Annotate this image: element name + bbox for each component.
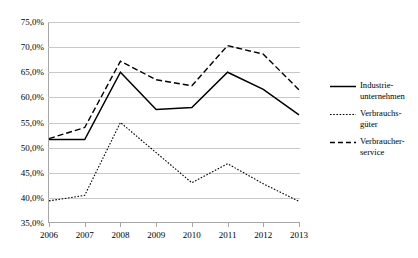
x-axis-tick-label: 2008 [100,230,140,240]
legend-line-swatch-dotted-icon [330,109,356,120]
x-axis-tick-label: 2009 [136,230,176,240]
series-lines [48,22,300,223]
legend-item-label: Verbraucher- service [360,136,405,157]
y-axis-tick-label: 65,0% [0,67,44,77]
plot-area [48,22,300,223]
x-axis-tick-label: 2006 [29,230,69,240]
x-axis-tick-mark [49,223,50,227]
y-axis-tick-label: 60,0% [0,92,44,102]
x-axis-tick-mark [299,223,300,227]
y-axis-tick-label: 50,0% [0,143,44,153]
y-axis-tick-label: 70,0% [0,42,44,52]
legend-item[interactable]: Verbrauchs- güter [330,108,418,129]
x-axis-tick-mark [156,223,157,227]
x-axis-tick-mark [228,223,229,227]
x-axis-tick-label: 2013 [279,230,319,240]
y-axis-tick-label: 75,0% [0,17,44,27]
legend-line-swatch-solid-icon [330,81,356,92]
y-axis-tick-label: 40,0% [0,193,44,203]
line-chart: 35,0%40,0%45,0%50,0%55,0%60,0%65,0%70,0%… [0,0,418,258]
x-axis-tick-label: 2011 [208,230,248,240]
series-line-3 [49,46,299,139]
legend-item[interactable]: Industrie- unternehmen [330,80,418,101]
legend-line-swatch-dashed-icon [330,137,356,148]
y-axis-tick-label: 45,0% [0,168,44,178]
x-axis-tick-mark [85,223,86,227]
x-axis-tick-label: 2010 [172,230,212,240]
y-axis-tick-label: 55,0% [0,118,44,128]
y-axis-tick-label: 35,0% [0,218,44,228]
x-axis-tick-mark [263,223,264,227]
x-axis-tick-mark [120,223,121,227]
legend-item-label: Industrie- unternehmen [360,80,405,101]
x-axis-tick-label: 2007 [65,230,105,240]
legend-item[interactable]: Verbraucher- service [330,136,418,157]
x-axis-tick-mark [192,223,193,227]
chart-legend: Industrie- unternehmenVerbrauchs- güterV… [330,80,418,164]
series-line-2 [49,123,299,202]
legend-item-label: Verbrauchs- güter [360,108,402,129]
x-axis-tick-label: 2012 [243,230,283,240]
